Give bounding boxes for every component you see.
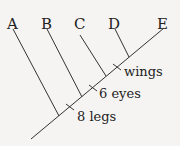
taxon-b-label: B (41, 15, 52, 33)
branch-d (115, 29, 129, 57)
taxon-d-label: D (108, 15, 120, 33)
taxon-e-label: E (157, 15, 168, 33)
cladogram-svg: A B C D E 8 legs 6 eyes wings (0, 0, 180, 146)
trait-wings-label: wings (124, 64, 163, 79)
taxon-c-label: C (74, 15, 85, 33)
branch-c (80, 35, 106, 76)
trait-8-legs-label: 8 legs (77, 109, 116, 124)
branch-a (13, 29, 59, 116)
branch-b (47, 29, 82, 97)
cladogram: A B C D E 8 legs 6 eyes wings (0, 0, 180, 146)
taxon-a-label: A (6, 15, 18, 33)
trait-6-eyes-label: 6 eyes (99, 86, 141, 101)
